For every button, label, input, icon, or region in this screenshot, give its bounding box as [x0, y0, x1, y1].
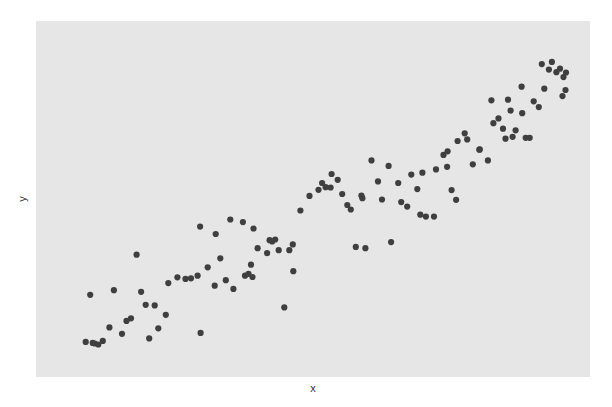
data-point — [485, 157, 491, 163]
data-point — [502, 136, 508, 142]
data-point — [375, 178, 381, 184]
data-point — [386, 163, 392, 169]
data-point — [174, 274, 180, 280]
data-point — [165, 280, 171, 286]
plot-panel — [36, 21, 590, 377]
data-point — [348, 206, 354, 212]
data-point — [281, 304, 287, 310]
data-point — [290, 241, 296, 247]
data-point — [248, 262, 254, 268]
data-point — [417, 212, 423, 218]
data-point — [453, 197, 459, 203]
data-point — [557, 66, 563, 72]
scatter-chart: x y — [0, 0, 612, 407]
data-point — [449, 187, 455, 193]
data-point — [541, 86, 547, 92]
data-point — [495, 115, 501, 121]
data-point — [519, 84, 525, 90]
x-axis-label: x — [310, 382, 316, 394]
data-point — [83, 339, 89, 345]
data-point — [500, 126, 506, 132]
data-point — [240, 219, 246, 225]
data-point — [398, 199, 404, 205]
data-point — [549, 59, 555, 65]
data-point — [423, 214, 429, 220]
data-point — [100, 338, 106, 344]
data-point — [408, 172, 414, 178]
data-point — [559, 93, 565, 99]
data-point — [379, 196, 385, 202]
data-point — [539, 61, 545, 67]
data-point — [230, 286, 236, 292]
data-point — [328, 184, 334, 190]
data-point — [359, 195, 365, 201]
data-point — [509, 134, 515, 140]
data-point — [255, 245, 261, 251]
data-point — [445, 148, 451, 154]
data-point — [163, 312, 169, 318]
data-point — [272, 236, 278, 242]
data-point — [198, 330, 204, 336]
data-point — [223, 277, 229, 283]
data-point — [152, 302, 158, 308]
data-point — [111, 287, 117, 293]
data-point — [546, 67, 552, 73]
data-point — [329, 171, 335, 177]
data-point — [217, 255, 223, 261]
data-point — [290, 268, 296, 274]
data-point — [182, 276, 188, 282]
data-point — [155, 325, 161, 331]
data-point — [508, 108, 514, 114]
data-point — [519, 110, 525, 116]
data-point — [470, 161, 476, 167]
data-point — [249, 274, 255, 280]
data-point — [297, 207, 303, 213]
data-point — [227, 216, 233, 222]
data-point — [286, 247, 292, 253]
data-point — [264, 250, 270, 256]
data-point — [335, 177, 341, 183]
data-point — [404, 204, 410, 210]
data-point — [306, 193, 312, 199]
data-point — [213, 231, 219, 237]
y-axis-label: y — [16, 196, 28, 202]
data-point — [134, 252, 140, 258]
data-point — [477, 146, 483, 152]
data-point — [188, 275, 194, 281]
data-point — [536, 104, 542, 110]
data-point — [527, 135, 533, 141]
data-point — [197, 224, 203, 230]
data-point — [362, 245, 368, 251]
data-point — [138, 289, 144, 295]
data-point — [143, 302, 149, 308]
data-point — [562, 87, 568, 93]
data-point — [315, 187, 321, 193]
data-point — [395, 180, 401, 186]
data-point — [563, 69, 569, 75]
data-point — [87, 292, 93, 298]
data-point — [388, 239, 394, 245]
data-point — [276, 247, 282, 253]
data-point — [513, 127, 519, 133]
data-point — [205, 264, 211, 270]
data-point — [505, 97, 511, 103]
data-point — [414, 186, 420, 192]
data-point — [433, 166, 439, 172]
data-point — [488, 97, 494, 103]
data-point — [462, 130, 468, 136]
data-point — [250, 225, 256, 231]
data-point — [464, 136, 470, 142]
data-point — [455, 138, 461, 144]
data-point — [212, 283, 218, 289]
data-point — [368, 157, 374, 163]
data-point — [353, 244, 359, 250]
data-point — [106, 324, 112, 330]
data-point — [431, 214, 437, 220]
data-point — [419, 170, 425, 176]
data-point — [531, 98, 537, 104]
data-point — [195, 273, 201, 279]
data-point — [146, 335, 152, 341]
data-point — [444, 164, 450, 170]
data-point — [490, 120, 496, 126]
data-point — [339, 191, 345, 197]
